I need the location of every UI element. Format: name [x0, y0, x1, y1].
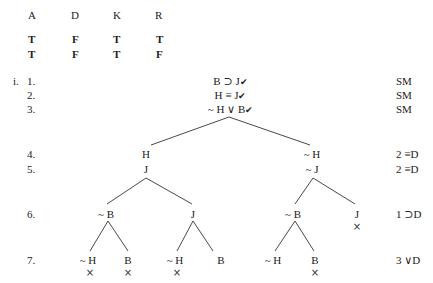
node-l5-left: J [144, 163, 148, 175]
node-l7-a: ~ H [80, 254, 97, 266]
problem-label: i. [13, 75, 19, 87]
node-l6-a: ~ B [98, 208, 114, 220]
node-l6-c: ~ B [285, 208, 301, 220]
closed-branch-icon: × [86, 267, 94, 279]
justification-1: SM [396, 75, 412, 87]
justification-7: 3 ∨D [396, 254, 420, 266]
premise-3: ~ H ∨ B✔ [208, 103, 253, 116]
node-l7-d: B [217, 254, 224, 266]
premise-1: B ⊃ J✔ [213, 75, 246, 88]
check-mark-icon: ✔ [240, 77, 247, 87]
tree-branch-lines [0, 0, 433, 283]
line-number-4: 4. [27, 148, 35, 160]
line-number-1: 1. [27, 75, 35, 87]
premise-2-formula: H ≡ J [215, 89, 239, 101]
node-l7-e: ~ H [265, 254, 282, 266]
premise-2: H ≡ J✔ [215, 89, 246, 102]
node-l7-b: B [124, 254, 131, 266]
node-l7-c: ~ H [167, 254, 184, 266]
closed-branch-icon: × [311, 267, 319, 279]
closed-branch-icon: × [353, 221, 361, 233]
justification-6: 1 ⊃D [396, 208, 421, 220]
check-mark-icon: ✔ [245, 105, 252, 115]
node-l5-right: ~ J [306, 163, 319, 175]
line-number-7: 7. [27, 254, 35, 266]
premise-1-formula: B ⊃ J [213, 75, 239, 87]
line-number-2: 2. [27, 89, 35, 101]
node-l4-left: H [142, 148, 150, 160]
justification-5: 2 ≡D [396, 163, 418, 175]
node-l4-right: ~ H [304, 148, 321, 160]
closed-branch-icon: × [173, 267, 181, 279]
line-number-6: 6. [27, 208, 35, 220]
node-l7-f: B [311, 254, 318, 266]
justification-3: SM [396, 103, 412, 115]
justification-2: SM [396, 89, 412, 101]
line-number-5: 5. [27, 163, 35, 175]
premise-3-formula: ~ H ∨ B [208, 103, 246, 115]
node-l6-d: J [355, 208, 359, 220]
node-l6-b: J [191, 208, 195, 220]
line-number-3: 3. [27, 103, 35, 115]
check-mark-icon: ✔ [238, 91, 245, 101]
closed-branch-icon: × [124, 267, 132, 279]
justification-4: 2 ≡D [396, 148, 418, 160]
